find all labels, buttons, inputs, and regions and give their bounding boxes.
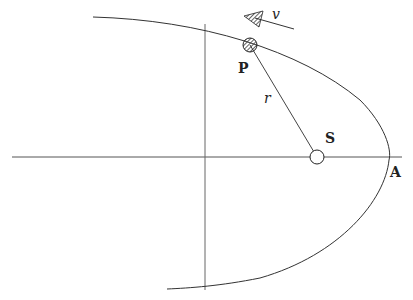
label-velocity: v bbox=[272, 6, 280, 22]
label-sun: S bbox=[325, 130, 335, 146]
velocity-arrowhead-icon bbox=[244, 11, 263, 27]
label-radius: r bbox=[264, 90, 272, 106]
sun-focus bbox=[310, 150, 324, 164]
label-planet: P bbox=[238, 60, 249, 76]
planet-body bbox=[243, 38, 257, 52]
diagram-svg: P S A r v bbox=[0, 0, 413, 300]
radius-line bbox=[250, 45, 317, 157]
label-apex: A bbox=[389, 164, 402, 180]
orbit-diagram: P S A r v bbox=[0, 0, 413, 300]
parabolic-orbit bbox=[93, 17, 390, 289]
